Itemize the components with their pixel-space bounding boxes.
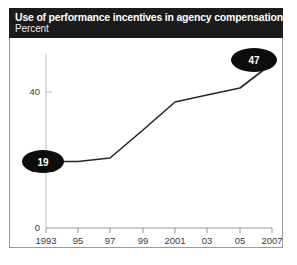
x-tick-label-95: 95 bbox=[73, 235, 84, 246]
x-tick-label-1993: 1993 bbox=[35, 235, 56, 246]
line-chart-plot: 40 20 0 1993 95 97 99 2001 03 05 2007 19… bbox=[9, 38, 283, 248]
callout-end-label: 47 bbox=[248, 55, 260, 66]
x-tick-label-03: 03 bbox=[202, 235, 213, 246]
y-tick-label-0: 0 bbox=[35, 222, 40, 233]
x-tick-label-2007: 2007 bbox=[261, 235, 282, 246]
chart-title-bar: Use of performance incentives in agency … bbox=[9, 8, 283, 38]
x-tick-label-05: 05 bbox=[235, 235, 246, 246]
callout-start: 19 bbox=[22, 150, 64, 173]
page-title: Use of performance incentives in agency … bbox=[15, 11, 283, 23]
chart-figure: Use of performance incentives in agency … bbox=[0, 0, 297, 265]
x-tick-label-97: 97 bbox=[105, 235, 116, 246]
x-tick-label-99: 99 bbox=[138, 235, 149, 246]
callout-end: 47 bbox=[231, 48, 277, 72]
data-series-line bbox=[46, 64, 272, 162]
x-tick-label-2001: 2001 bbox=[164, 235, 185, 246]
y-tick-label-40: 40 bbox=[29, 86, 40, 97]
callout-start-label: 19 bbox=[37, 157, 49, 168]
chart-subtitle: Percent bbox=[15, 23, 283, 35]
